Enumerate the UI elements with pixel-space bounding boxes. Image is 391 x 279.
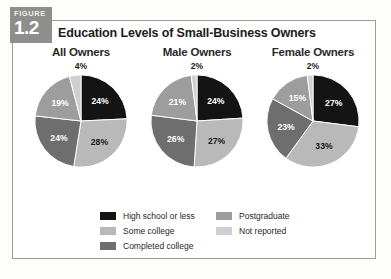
legend-label: Some college — [123, 226, 175, 236]
legend-item: Completed college — [100, 239, 195, 252]
pie-slice-label: 33% — [315, 141, 333, 151]
legend-swatch — [100, 227, 116, 235]
pie-top-callout: 2% — [137, 61, 257, 72]
pie-slice-label: 27% — [325, 98, 343, 108]
pie-chart-row: All Owners 4% 24%28%24%19% Male Owners 2… — [13, 46, 375, 194]
pie-slice-label: 24% — [50, 133, 68, 143]
pie-slice-label: 19% — [51, 98, 69, 108]
legend-swatch — [216, 212, 232, 220]
legend-item: Not reported — [216, 224, 290, 237]
pie-svg-2: 27%33%23%15% — [265, 73, 361, 169]
pie-svg-wrapper: 24%28%24%19% — [33, 73, 129, 169]
chart-legend: High school or lessSome collegeCompleted… — [100, 209, 340, 253]
pie-slice-label: 21% — [169, 97, 187, 107]
pie-slice-label: 28% — [91, 137, 109, 147]
legend-swatch — [100, 212, 116, 220]
pie-chart-female-owners: Female Owners 2% 27%33%23%15% — [253, 46, 373, 169]
pie-svg-wrapper: 27%33%23%15% — [265, 73, 361, 169]
figure-number-badge: FIGURE 1.2 — [10, 7, 52, 43]
legend-label: Postgraduate — [239, 211, 290, 221]
pie-svg-wrapper: 24%27%26%21% — [149, 73, 245, 169]
pie-chart-heading: Female Owners — [253, 46, 373, 59]
pie-slice-label: 15% — [289, 93, 307, 103]
pie-svg-1: 24%27%26%21% — [149, 73, 245, 169]
pie-top-callout: 4% — [21, 61, 141, 72]
legend-item: Postgraduate — [216, 209, 290, 222]
pie-slice-label: 24% — [207, 96, 225, 106]
pie-slice-label: 23% — [277, 122, 295, 132]
legend-item: High school or less — [100, 209, 195, 222]
pie-svg-0: 24%28%24%19% — [33, 73, 129, 169]
pie-top-callout: 2% — [253, 61, 373, 72]
legend-column-left: High school or lessSome collegeCompleted… — [100, 209, 195, 254]
figure-badge-number: 1.2 — [14, 18, 52, 38]
pie-slice-label: 27% — [208, 136, 226, 146]
figure-title: Education Levels of Small-Business Owner… — [58, 26, 316, 40]
pie-chart-heading: Male Owners — [137, 46, 257, 59]
legend-label: Completed college — [123, 241, 193, 251]
pie-chart-all-owners: All Owners 4% 24%28%24%19% — [21, 46, 141, 169]
pie-chart-heading: All Owners — [21, 46, 141, 59]
pie-slice-label: 24% — [91, 96, 109, 106]
legend-column-right: PostgraduateNot reported — [216, 209, 290, 239]
legend-label: Not reported — [239, 226, 286, 236]
legend-swatch — [216, 227, 232, 235]
figure-container: FIGURE 1.2 Education Levels of Small-Bus… — [0, 0, 391, 279]
pie-slice-label: 26% — [167, 134, 185, 144]
legend-swatch — [100, 242, 116, 250]
pie-chart-male-owners: Male Owners 2% 24%27%26%21% — [137, 46, 257, 169]
legend-label: High school or less — [123, 211, 195, 221]
legend-item: Some college — [100, 224, 195, 237]
